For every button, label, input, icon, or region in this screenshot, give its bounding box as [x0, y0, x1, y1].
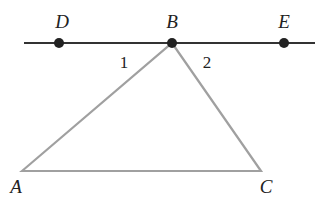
point-b-dot [167, 38, 177, 48]
triangle-abc [22, 43, 261, 171]
point-d-dot [54, 38, 64, 48]
point-e-dot [279, 38, 289, 48]
point-labels: DBEAC [8, 11, 290, 197]
diagram-canvas: DBEAC 12 [0, 0, 331, 201]
point-label-d: D [54, 11, 69, 32]
point-label-c: C [260, 176, 273, 197]
geometry-diagram: DBEAC 12 [0, 0, 331, 201]
angle-labels: 12 [120, 53, 212, 72]
point-label-b: B [166, 11, 178, 32]
angle-label-1: 1 [120, 53, 129, 72]
point-label-a: A [8, 176, 22, 197]
point-label-e: E [277, 11, 290, 32]
angle-label-2: 2 [203, 53, 212, 72]
